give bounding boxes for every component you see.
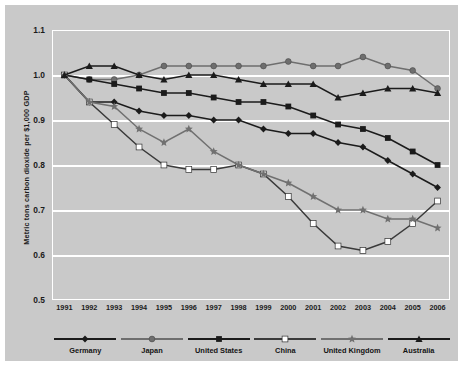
series-united-states: [62, 72, 441, 168]
data-point-circle-gray: [161, 63, 167, 69]
legend-marker-square-white: [279, 333, 291, 345]
x-axis-tick-labels: 1991199219931994199519961997199819992000…: [52, 303, 450, 317]
data-point-circle-gray: [149, 336, 155, 342]
data-point-diamond: [434, 184, 441, 191]
data-point-square-black: [360, 126, 366, 132]
series-line: [64, 75, 437, 228]
data-point-triangle-black: [415, 335, 422, 341]
legend-marker-circle-gray: [146, 333, 158, 345]
data-point-diamond: [185, 112, 192, 119]
data-point-diamond: [285, 130, 292, 137]
data-point-square-white: [310, 221, 316, 227]
data-point-square-black: [86, 77, 92, 83]
data-point-diamond: [409, 171, 416, 178]
data-point-diamond: [310, 130, 317, 137]
data-point-diamond: [136, 108, 143, 115]
legend-marker-triangle-black: [413, 333, 425, 345]
series-line: [64, 66, 437, 98]
legend-label: Australia: [386, 346, 452, 355]
data-point-square-white: [161, 162, 167, 168]
data-point-diamond: [161, 112, 168, 119]
data-point-square-white: [111, 122, 117, 128]
series-layer: [52, 30, 450, 300]
data-point-circle-gray: [310, 63, 316, 69]
chart-figure: Metric tons carbon dioxide per $1,000 GD…: [0, 0, 463, 366]
data-point-square-black: [385, 135, 391, 141]
y-tick-label: 0.6: [5, 250, 45, 260]
data-point-circle-gray: [360, 54, 366, 60]
data-point-square-black: [186, 90, 192, 96]
y-tick-label: 0.5: [5, 295, 45, 305]
legend-swatch: [54, 333, 116, 345]
data-point-square-black: [261, 99, 267, 105]
data-point-star-gray: [160, 138, 168, 146]
legend-marker-star-gray: [346, 333, 358, 345]
data-point-square-black: [335, 122, 341, 128]
data-point-diamond: [210, 117, 217, 124]
legend-label: Japan: [119, 346, 185, 355]
data-point-square-black: [310, 113, 316, 119]
series-united-kingdom: [60, 71, 441, 232]
series-line: [64, 75, 437, 165]
data-point-square-white: [136, 144, 142, 150]
data-point-circle-gray: [236, 63, 242, 69]
data-point-square-black: [136, 86, 142, 92]
series-line: [64, 75, 437, 188]
chart-legend: GermanyJapanUnited StatesChinaUnited Kin…: [52, 333, 452, 363]
data-point-square-black: [435, 162, 441, 168]
data-point-circle-gray: [186, 63, 192, 69]
data-point-square-black: [410, 149, 416, 155]
data-point-square-white: [186, 167, 192, 173]
y-tick-label: 0.9: [5, 115, 45, 125]
data-point-diamond: [235, 117, 242, 124]
data-point-diamond: [82, 336, 89, 343]
legend-swatch: [254, 333, 316, 345]
legend-swatch: [188, 333, 250, 345]
y-tick-label: 1.1: [5, 25, 45, 35]
legend-label: United Kingdom: [319, 346, 385, 355]
data-point-square-black: [285, 104, 291, 110]
series-japan: [62, 54, 441, 91]
data-point-star-gray: [384, 215, 392, 223]
data-point-square-white: [285, 194, 291, 200]
data-point-star-gray: [434, 224, 442, 232]
legend-label: Germany: [52, 346, 118, 355]
legend-swatch: [121, 333, 183, 345]
data-point-circle-gray: [211, 63, 217, 69]
legend-label: China: [252, 346, 318, 355]
data-point-square-white: [211, 167, 217, 173]
data-point-circle-gray: [335, 63, 341, 69]
legend-marker-diamond: [79, 333, 91, 345]
legend-item-united-kingdom[interactable]: United Kingdom: [319, 333, 385, 355]
x-tick-label: 2006: [421, 303, 455, 312]
data-point-star-gray: [359, 206, 367, 214]
data-point-circle-gray: [410, 68, 416, 74]
data-point-square-white: [360, 248, 366, 254]
data-point-diamond: [384, 157, 391, 164]
legend-swatch: [321, 333, 383, 345]
legend-item-united-states[interactable]: United States: [186, 333, 252, 355]
data-point-square-white: [282, 336, 288, 342]
data-point-circle-gray: [285, 59, 291, 65]
data-point-square-black: [211, 95, 217, 101]
legend-swatch: [388, 333, 450, 345]
data-point-star-gray: [348, 335, 356, 343]
data-point-circle-gray: [261, 63, 267, 69]
data-point-circle-gray: [385, 63, 391, 69]
legend-item-japan[interactable]: Japan: [119, 333, 185, 355]
legend-marker-square-black: [213, 333, 225, 345]
series-line: [64, 57, 437, 89]
data-point-diamond: [335, 139, 342, 146]
data-point-square-black: [236, 99, 242, 105]
data-point-diamond: [360, 144, 367, 151]
data-point-square-white: [435, 198, 441, 204]
y-tick-label: 0.7: [5, 205, 45, 215]
data-point-star-gray: [334, 206, 342, 214]
legend-label: United States: [186, 346, 252, 355]
data-point-diamond: [260, 126, 267, 133]
data-point-square-white: [335, 243, 341, 249]
legend-item-china[interactable]: China: [252, 333, 318, 355]
legend-item-australia[interactable]: Australia: [386, 333, 452, 355]
legend-item-germany[interactable]: Germany: [52, 333, 118, 355]
data-point-square-white: [385, 239, 391, 245]
